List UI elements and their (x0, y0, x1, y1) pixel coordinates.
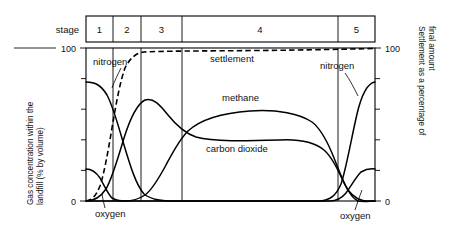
curve-oxygen (86, 169, 375, 201)
annotation-carbon-dioxide: carbon dioxide (206, 143, 268, 154)
label-methane: methane (222, 92, 259, 103)
right-axis-title-line2: final amount (427, 26, 436, 71)
annotation-methane: methane (222, 92, 259, 103)
right-axis-title-line1: Settlement as a percentage of (417, 26, 426, 136)
annotation-oxygen-left: oxygen (95, 194, 126, 219)
right-axis-label-100: 100 (385, 44, 400, 54)
stage-label-2: 2 (124, 24, 129, 35)
left-axis-label-0: 0 (71, 197, 76, 207)
stage-label-4: 4 (257, 24, 262, 35)
label-nitrogen-right: nitrogen (320, 60, 354, 71)
left-axis-title-line2: landfill (% by volume) (36, 127, 45, 205)
right-axis-title: Settlement as a percentage of final amou… (417, 26, 436, 136)
annotation-nitrogen-left: nitrogen (93, 56, 127, 88)
left-axis-label-100: 100 (61, 44, 76, 54)
stage-header-band: 1 2 3 4 5 stage (56, 16, 375, 42)
right-axis-ticks: 100 0 (375, 44, 400, 207)
right-axis-label-0: 0 (385, 197, 390, 207)
label-carbon-dioxide: carbon dioxide (206, 143, 268, 154)
left-axis-title-line1: Gas concentration within the (26, 101, 35, 205)
left-axis-title: Gas concentration within the landfill (%… (26, 101, 45, 205)
stage-label-1: 1 (97, 24, 102, 35)
label-oxygen-right: oxygen (340, 210, 371, 221)
label-nitrogen-left: nitrogen (93, 56, 127, 67)
stage-label-5: 5 (354, 24, 359, 35)
label-settlement: settlement (210, 53, 254, 64)
annotation-settlement: settlement (210, 53, 254, 64)
stage-row-label: stage (56, 24, 79, 35)
left-axis-ticks: 100 0 (14, 44, 86, 207)
annotation-nitrogen-right: nitrogen (320, 60, 358, 96)
landfill-gas-chart: 1 2 3 4 5 stage 100 0 100 0 G (0, 0, 450, 231)
leader-nitrogen-right (345, 73, 358, 96)
label-oxygen-left: oxygen (95, 208, 126, 219)
stage-label-3: 3 (159, 24, 164, 35)
chart-svg: 1 2 3 4 5 stage 100 0 100 0 G (0, 0, 450, 231)
